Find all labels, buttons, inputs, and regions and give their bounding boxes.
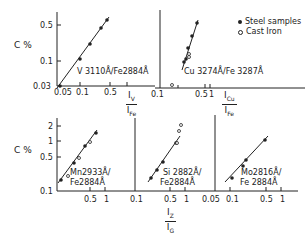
bottom-xlabel: IZ IG — [165, 207, 176, 236]
tick: 0.1 — [40, 187, 53, 196]
p1-ylabel: C % — [14, 40, 32, 50]
tick: 1 — [48, 137, 53, 146]
p3-ylabel: C % — [14, 145, 32, 155]
p5-title-b: Fe 2884Å — [240, 178, 277, 187]
p4-title-a: Si 2882Å/ — [163, 168, 201, 177]
tick: 2 — [48, 122, 53, 131]
tick: 1 — [209, 90, 214, 99]
legend-cast: Cast Iron — [238, 27, 301, 37]
tick: 0.5 — [40, 21, 53, 30]
p4-title-b: Fe2884Å — [160, 178, 195, 187]
tick: 0.1 — [226, 195, 239, 204]
tick: 0.5 — [40, 153, 53, 162]
tick: 1 — [184, 195, 189, 204]
tick: 0.5 — [104, 88, 117, 97]
tick: 0.1 — [76, 88, 89, 97]
tick: 1 — [104, 195, 109, 204]
tick: 0.5 — [84, 195, 97, 204]
p5-title-a: Mo2816Å/ — [241, 168, 281, 177]
tick: 0.1 — [151, 90, 164, 99]
p2-title: Cu 3274Å/Fe 3287Å — [184, 67, 263, 76]
tick: 0.5 — [164, 195, 177, 204]
p3-title-a: Mn2933Å/ — [70, 168, 111, 177]
p1-title: V 3110Å/Fe2884Å — [77, 67, 148, 76]
legend: Steel samples Cast Iron — [238, 17, 301, 37]
tick: 0.05 — [202, 195, 220, 204]
tick: 0.03 — [33, 82, 51, 91]
p1-xlabel: IV IFe — [126, 90, 137, 119]
tick: 0.05 — [54, 88, 72, 97]
tick: 0.5 — [260, 195, 273, 204]
tick: 1 — [280, 195, 285, 204]
legend-steel: Steel samples — [238, 17, 301, 27]
filled-circle-icon — [238, 20, 242, 24]
open-circle-icon — [238, 30, 243, 35]
tick: 0.5 — [195, 90, 208, 99]
tick: 0.1 — [40, 57, 53, 66]
p2-xlabel: ICu IFe — [222, 90, 237, 119]
tick: 0.1 — [130, 195, 143, 204]
p3-title-b: Fe2884Å — [70, 178, 105, 187]
